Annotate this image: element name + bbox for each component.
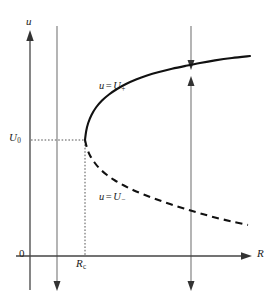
rc-tick-label-subscript: c — [83, 263, 87, 271]
y-axis-label: u — [26, 16, 32, 27]
right-flow-down-arrow-icon-lower — [188, 281, 195, 291]
rc-tick-label: Rc — [76, 258, 86, 271]
y-axis-arrow-icon — [26, 30, 33, 41]
rc-tick-label-base: R — [76, 257, 83, 269]
right-flow-up-arrow-icon-middle — [188, 76, 195, 86]
lower-branch-label-operator: = — [104, 191, 113, 202]
bifurcation-diagram-figure: u R U0 0 Rc u=U+ u=U− — [0, 0, 275, 296]
upper-branch-label-operator: = — [104, 80, 113, 91]
u0-tick-label-subscript: 0 — [17, 137, 21, 145]
lower-branch-label: u=U− — [99, 192, 125, 203]
x-axis-label: R — [257, 248, 264, 259]
axes-group — [16, 30, 252, 290]
left-flow-down-arrow-icon — [54, 281, 61, 291]
origin-label: 0 — [19, 248, 25, 259]
lower-unstable-branch-curve — [85, 140, 248, 225]
lower-branch-label-variable: U — [113, 191, 121, 202]
upper-stable-branch-curve — [85, 56, 250, 140]
diagram-canvas — [0, 0, 275, 296]
x-axis-arrow-icon — [241, 252, 252, 259]
guide-lines-group — [31, 140, 85, 256]
upper-branch-label: u=U+ — [99, 81, 125, 92]
u0-tick-label-base: U — [9, 131, 17, 143]
upper-branch-label-variable: U — [113, 80, 121, 91]
u0-tick-label: U0 — [9, 132, 21, 145]
flow-field-group — [54, 26, 195, 291]
lower-branch-label-sign: − — [121, 195, 126, 204]
upper-branch-label-sign: + — [121, 84, 126, 93]
